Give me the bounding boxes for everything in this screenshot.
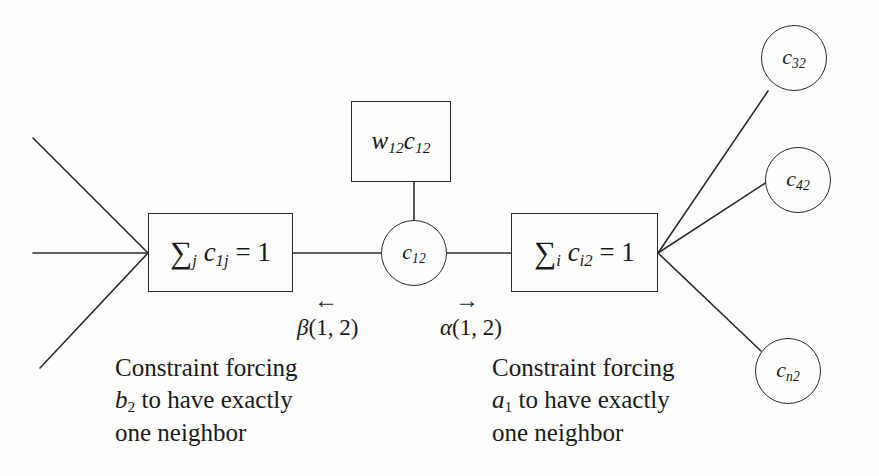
caption-left-rest: to have exactly <box>135 386 293 413</box>
beta-message-label: β(1, 2) <box>297 316 358 339</box>
c32-subscript: 32 <box>792 56 806 71</box>
caption-left-var: b <box>115 386 128 413</box>
edge-right-to-c42 <box>658 180 770 253</box>
variable-node-c32-label: c32 <box>782 46 805 70</box>
weight-variable-subscript: 12 <box>415 139 431 156</box>
edge-right-to-c32 <box>658 91 768 253</box>
caption-right-line2: a1 to have exactly <box>492 384 675 417</box>
c42-symbol: c <box>786 166 796 191</box>
variable-node-c12[interactable]: c12 <box>381 220 447 286</box>
caption-right-line3: one neighbor <box>492 417 675 449</box>
beta-arrow-icon: ← <box>314 288 338 312</box>
sum-subscript-right: i <box>556 251 561 270</box>
weight-symbol: w <box>372 127 389 154</box>
variable-subscript-right: i2 <box>580 251 593 270</box>
constraint-node-left[interactable]: ∑j c1j = 1 <box>148 213 293 292</box>
variable-symbol-left: c <box>204 237 216 267</box>
variable-subscript-left: 1j <box>216 251 229 270</box>
variable-node-c42[interactable]: c42 <box>765 147 831 213</box>
caption-left: Constraint forcing b2 to have exactly on… <box>115 352 298 449</box>
variable-node-cn2-label: cn2 <box>776 359 799 383</box>
caption-left-line3: one neighbor <box>115 417 298 449</box>
variable-symbol-right: c <box>568 237 580 267</box>
alpha-args: (1, 2) <box>452 315 502 340</box>
sum-subscript-left: j <box>192 251 197 270</box>
constraint-right-label: ∑i ci2 = 1 <box>534 235 635 269</box>
beta-symbol: β <box>297 315 308 340</box>
diagram-canvas: ∑j c1j = 1 ∑i ci2 = 1 w12c12 c12 c32 c42… <box>0 0 879 476</box>
constraint-left-label: ∑j c1j = 1 <box>170 235 271 269</box>
alpha-symbol: α <box>440 315 452 340</box>
caption-right-line1: Constraint forcing <box>492 352 675 384</box>
c12-symbol: c <box>402 239 412 264</box>
alpha-message-label: α(1, 2) <box>440 316 502 339</box>
variable-node-c32[interactable]: c32 <box>761 25 827 91</box>
caption-left-line1: Constraint forcing <box>115 352 298 384</box>
weight-subscript: 12 <box>388 139 404 156</box>
variable-node-cn2[interactable]: cn2 <box>755 338 821 404</box>
weight-variable-symbol: c <box>404 127 415 154</box>
relation-left: = 1 <box>235 237 270 267</box>
edge-left-upper <box>33 138 148 253</box>
cn2-symbol: c <box>776 357 786 382</box>
sum-symbol-left: ∑ <box>170 235 192 270</box>
constraint-node-right[interactable]: ∑i ci2 = 1 <box>511 213 658 292</box>
relation-right: = 1 <box>599 237 634 267</box>
variable-node-c12-label: c12 <box>402 241 425 265</box>
c42-subscript: 42 <box>796 178 810 193</box>
beta-args: (1, 2) <box>308 315 358 340</box>
caption-right-var: a <box>492 386 505 413</box>
c12-subscript: 12 <box>412 251 426 266</box>
weight-factor-node[interactable]: w12c12 <box>351 101 451 182</box>
weight-factor-label: w12c12 <box>372 128 431 156</box>
c32-symbol: c <box>782 44 792 69</box>
caption-right: Constraint forcing a1 to have exactly on… <box>492 352 675 449</box>
caption-left-line2: b2 to have exactly <box>115 384 298 417</box>
caption-right-rest: to have exactly <box>512 386 670 413</box>
alpha-arrow-icon: → <box>455 288 479 312</box>
variable-node-c42-label: c42 <box>786 168 809 192</box>
cn2-subscript: n2 <box>786 369 800 384</box>
sum-symbol-right: ∑ <box>534 235 556 270</box>
edge-left-lower <box>40 253 148 368</box>
edge-right-to-cn2 <box>658 253 761 351</box>
